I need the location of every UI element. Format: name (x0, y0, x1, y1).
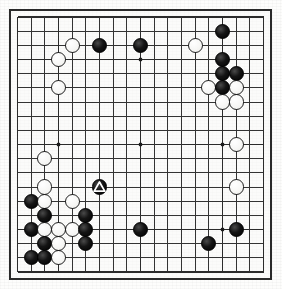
star-point (221, 143, 225, 147)
black-stone[interactable] (133, 38, 148, 53)
white-stone[interactable] (188, 38, 203, 53)
star-point (139, 143, 143, 147)
star-point (139, 58, 143, 62)
star-point (57, 143, 61, 147)
black-stone[interactable] (92, 38, 107, 53)
black-stone[interactable] (229, 222, 244, 237)
go-board[interactable] (9, 9, 272, 280)
white-stone[interactable] (215, 94, 230, 109)
black-stone[interactable] (92, 179, 107, 194)
white-stone[interactable] (37, 179, 52, 194)
white-stone[interactable] (65, 38, 80, 53)
black-stone[interactable] (229, 66, 244, 81)
star-point (221, 228, 225, 232)
go-diagram-screenshot (0, 0, 282, 289)
white-stone[interactable] (229, 179, 244, 194)
white-stone[interactable] (229, 94, 244, 109)
black-stone[interactable] (215, 24, 230, 39)
white-stone[interactable] (229, 137, 244, 152)
white-stone[interactable] (65, 194, 80, 209)
